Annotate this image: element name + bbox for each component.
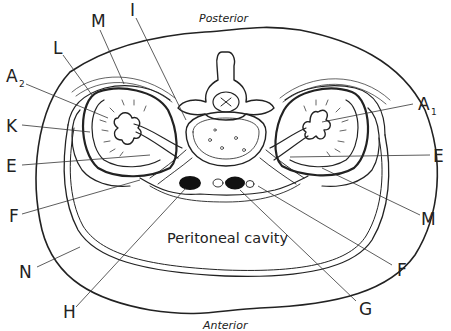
label-A1: A (418, 94, 430, 114)
peritoneal-cavity-label: Peritoneal cavity (167, 230, 288, 246)
vertebra (178, 52, 274, 166)
diagram-svg: Posterior Anterior Peritoneal cavity I M… (0, 0, 451, 331)
label-M-left: M (91, 11, 106, 31)
small-vessel (213, 179, 223, 187)
leader-lines (22, 18, 430, 307)
label-G: G (359, 299, 372, 319)
label-A2: A (6, 66, 18, 86)
right-kidney (270, 89, 368, 176)
label-E-left: E (6, 156, 17, 176)
aorta-vessel (179, 176, 201, 190)
vena-cava-vessel (225, 177, 245, 190)
label-H: H (63, 302, 76, 322)
label-K: K (6, 116, 18, 136)
mesentery-root-inner (150, 184, 300, 202)
small-vessel (246, 181, 254, 188)
label-A2-subscript: 2 (19, 79, 25, 89)
anatomical-cross-section-diagram: Posterior Anterior Peritoneal cavity I M… (0, 0, 451, 331)
label-F-left: F (9, 206, 19, 226)
label-F-right: F (397, 260, 407, 280)
posterior-label: Posterior (199, 12, 249, 25)
anterior-label: Anterior (202, 319, 249, 331)
peritoneum-outline (64, 125, 388, 276)
label-E-right: E (433, 146, 444, 166)
label-A1-subscript: 1 (431, 107, 437, 117)
label-I: I (130, 0, 135, 20)
left-kidney (83, 89, 182, 177)
label-N: N (19, 262, 32, 282)
label-L: L (53, 38, 63, 58)
label-M-right: M (421, 209, 436, 229)
